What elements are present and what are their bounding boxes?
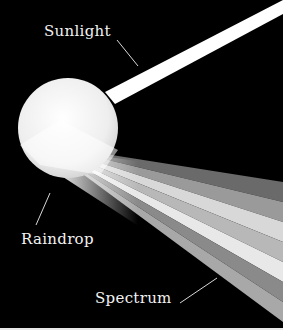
- rainbow-diagram: Sunlight Raindrop Spectrum: [0, 0, 283, 330]
- diagram-canvas: [0, 0, 283, 330]
- spectrum-leader-line: [180, 278, 217, 303]
- raindrop-leader-line: [36, 193, 50, 225]
- sunlight-label: Sunlight: [44, 22, 111, 40]
- sunlight-leader-line: [117, 40, 138, 66]
- spectrum-label: Spectrum: [95, 289, 172, 307]
- raindrop-label: Raindrop: [21, 230, 94, 248]
- sunlight-beam: [105, 0, 283, 104]
